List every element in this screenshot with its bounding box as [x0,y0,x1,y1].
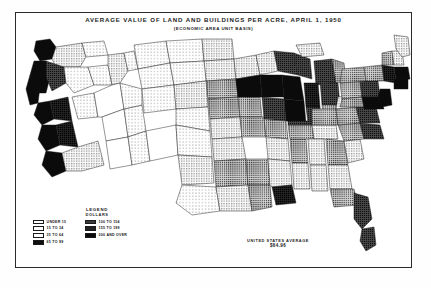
area-texas-central [214,159,248,187]
legend-swatch-icon [33,226,44,231]
area-mississippi-south [292,163,310,189]
area-virginia-east [356,107,380,123]
legend-swatch-icon [85,233,96,238]
area-new-york-west [340,67,366,83]
legend-swatch-icon [85,220,96,225]
area-texas-south [216,185,252,211]
map-page: AVERAGE VALUE OF LAND AND BUILDINGS PER … [0,0,431,288]
area-kansas-west [208,97,240,119]
area-arkansas [266,137,290,161]
legend-item-label: 100 TO 154 [99,220,120,225]
legend-item-label: 155 TO 199 [99,226,120,231]
legend-item: 155 TO 199 [85,226,147,231]
legend-column-right: 100 TO 154 155 TO 199 200 AND OVER [85,219,147,245]
legend-item: 100 TO 154 [85,219,147,224]
legend-item: 35 TO 64 [33,233,85,238]
area-montana-east [166,39,204,63]
area-kansas-east [238,97,262,117]
legend-columns: UNDER 15 15 TO 34 35 TO 64 65 TO 99 [33,219,151,245]
area-pennsylvania-east [360,81,380,97]
legend-swatch-icon [33,220,44,225]
area-missouri-north [262,97,286,121]
area-wyoming-east [170,61,206,85]
map-legend: LEGEND DOLLARS UNDER 15 15 TO 34 35 TO 6… [33,207,151,245]
page-title: AVERAGE VALUE OF LAND AND BUILDINGS PER … [15,16,412,24]
legend-swatch-icon [33,240,44,245]
area-mississippi-north [290,139,308,163]
area-pennsylvania-west [340,81,362,99]
area-arizona-west [106,137,132,169]
area-kentucky-east [312,109,338,125]
legend-units-label: DOLLARS [51,212,143,217]
area-louisiana [268,159,292,187]
legend-header: LEGEND DOLLARS [51,207,143,218]
area-connecticut-rhode-island [394,79,408,89]
area-georgia-south [328,165,352,189]
area-alabama-south [310,165,328,191]
area-new-mexico-west [146,125,178,161]
legend-item-label: 65 TO 99 [47,240,64,245]
area-kentucky-west [288,121,312,125]
area-nebraska-west [206,79,238,99]
area-iowa-east [260,75,284,97]
us-average-callout: UNITED STATES AVERAGE $64.96 [228,238,328,249]
legend-item: 65 TO 99 [33,240,85,245]
legend-item-label: 200 AND OVER [99,233,128,238]
area-oklahoma-east [240,117,266,137]
area-colorado-west [142,85,176,113]
area-illinois-south [284,99,306,123]
legend-item: 15 TO 34 [33,226,85,231]
legend-item-label: 15 TO 34 [47,226,64,231]
legend-swatch-icon [33,233,44,238]
area-virginia-west [336,107,360,125]
area-indiana-north [304,83,320,107]
area-texas-gulf [248,185,272,211]
title-block: AVERAGE VALUE OF LAND AND BUILDINGS PER … [15,16,412,32]
area-new-york-central [364,65,384,81]
area-tennessee-west [288,125,314,139]
page-subtitle: (ECONOMIC AREA UNIT BASIS) [15,25,412,32]
area-south-dakota [204,59,236,81]
area-colorado-east [174,81,208,109]
us-average-value: $64.96 [228,243,328,249]
legend-swatch-icon [85,226,96,231]
area-missouri-south [264,119,288,139]
area-louisiana-delta [272,185,296,205]
area-alabama-north [308,139,326,165]
area-tennessee-east [312,125,338,139]
area-iowa-west [236,75,262,97]
area-washington-east [82,41,108,57]
legend-item: UNDER 15 [33,219,85,224]
legend-column-left: UNDER 15 15 TO 34 35 TO 64 65 TO 99 [33,219,85,245]
area-texas-west [178,155,214,185]
area-ohio-north [320,81,340,105]
legend-item: 200 AND OVER [85,233,147,238]
area-minnesota-west [234,55,260,79]
area-north-dakota [202,39,234,61]
area-texas-north [212,137,246,161]
area-texas-east [246,159,270,185]
legend-item-label: 35 TO 64 [47,233,64,238]
area-oklahoma-west [210,117,242,139]
legend-item-label: UNDER 15 [47,220,67,225]
